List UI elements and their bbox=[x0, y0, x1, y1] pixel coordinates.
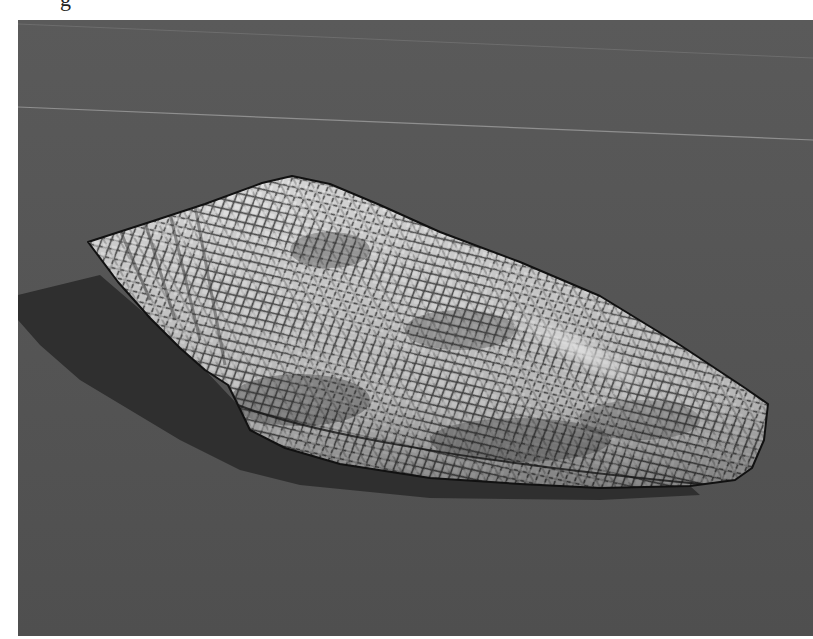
shell-photograph bbox=[18, 20, 813, 636]
shell-illustration bbox=[18, 20, 813, 636]
cropped-caption-text: g bbox=[60, 0, 71, 12]
